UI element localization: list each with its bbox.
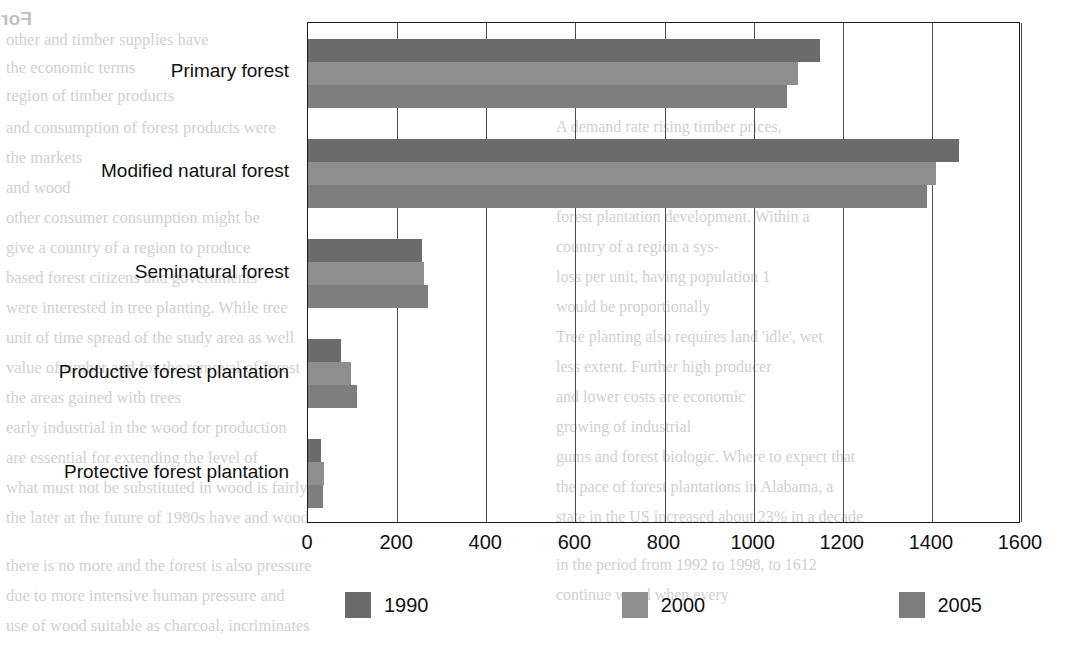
- legend-item[interactable]: 2005: [899, 592, 983, 618]
- gridline: [932, 23, 933, 522]
- tick-label: 600: [558, 531, 591, 554]
- bar: [308, 139, 959, 162]
- legend-swatch: [622, 592, 648, 618]
- bar: [308, 39, 820, 62]
- plot-area: [307, 22, 1020, 523]
- bar: [308, 262, 424, 285]
- bar: [308, 339, 341, 362]
- category-label: Productive forest plantation: [0, 361, 289, 383]
- tick-label: 1000: [730, 531, 775, 554]
- chart-legend: 199020002005: [307, 592, 1020, 618]
- tick-label: 1200: [820, 531, 865, 554]
- bar: [308, 239, 422, 262]
- tick-label: 1400: [909, 531, 954, 554]
- bar: [308, 62, 798, 85]
- legend-item[interactable]: 2000: [622, 592, 706, 618]
- legend-swatch: [345, 592, 371, 618]
- legend-label: 2005: [938, 594, 983, 617]
- bar: [308, 185, 927, 208]
- category-label: Modified natural forest: [0, 160, 289, 182]
- category-label: Primary forest: [0, 60, 289, 82]
- bar: [308, 285, 428, 308]
- tick-label: 200: [379, 531, 412, 554]
- bar: [308, 85, 787, 108]
- category-label: Seminatural forest: [0, 261, 289, 283]
- bar-chart-figure: Primary forestModified natural forestSem…: [0, 0, 1069, 652]
- bar: [308, 362, 351, 385]
- tick-label: 1600: [998, 531, 1043, 554]
- legend-swatch: [899, 592, 925, 618]
- tick-label: 400: [469, 531, 502, 554]
- bar: [308, 485, 323, 508]
- gridline: [1021, 23, 1022, 522]
- bar: [308, 162, 936, 185]
- legend-label: 1990: [384, 594, 429, 617]
- bar: [308, 462, 324, 485]
- bar: [308, 385, 357, 408]
- tick-label: 800: [647, 531, 680, 554]
- legend-label: 2000: [661, 594, 706, 617]
- tick-label: 0: [301, 531, 312, 554]
- category-label: Protective forest plantation: [0, 461, 289, 483]
- bar: [308, 439, 321, 462]
- gridline: [843, 23, 844, 522]
- legend-item[interactable]: 1990: [345, 592, 429, 618]
